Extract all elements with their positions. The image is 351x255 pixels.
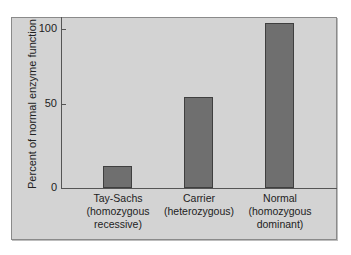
y-axis-line	[61, 17, 62, 188]
y-tick-100	[62, 29, 66, 30]
bar-tay-sachs	[103, 166, 132, 188]
bar-carrier	[184, 97, 213, 188]
category-line: dominant)	[230, 218, 330, 231]
y-tick-50	[62, 104, 66, 105]
y-tick-label-100: 100	[27, 22, 57, 34]
y-tick-label-0: 0	[27, 181, 57, 193]
bar-normal	[265, 23, 294, 188]
y-tick-0	[62, 188, 66, 189]
category-label-normal: Normal (homozygous dominant)	[230, 192, 330, 231]
y-tick-label-50: 50	[27, 97, 57, 109]
category-line: Normal	[230, 192, 330, 205]
category-line: (homozygous	[230, 205, 330, 218]
category-line: recessive)	[68, 218, 168, 231]
x-axis-line	[61, 188, 337, 189]
